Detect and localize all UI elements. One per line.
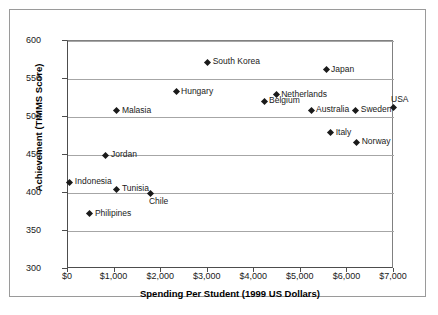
data-point-label: Philipines xyxy=(95,209,131,218)
data-point-label: Australia xyxy=(316,105,349,114)
data-point-marker xyxy=(322,66,329,73)
data-point-marker xyxy=(113,186,120,193)
y-axis-title: Achievement (TIMMS Score) xyxy=(33,18,44,238)
x-tick-label: $7,000 xyxy=(363,272,423,281)
data-point-label: Malasia xyxy=(122,106,151,115)
y-tick-label: 350 xyxy=(7,226,41,235)
data-point-marker xyxy=(66,179,73,186)
gridline xyxy=(68,231,394,232)
data-point-label: Italy xyxy=(336,128,352,137)
y-tick-label: 550 xyxy=(7,74,41,83)
data-point-label: South Korea xyxy=(213,57,260,66)
data-point-marker xyxy=(172,88,179,95)
scatter-chart-figure: Achievement (TIMMS Score) Spending Per S… xyxy=(0,0,438,315)
data-point-label: Netherlands xyxy=(281,90,327,99)
gridline xyxy=(68,117,394,118)
plot-area: IndonesiaPhilipinesJordanTunisiaMalasiaC… xyxy=(67,40,393,268)
data-point-label: Indonesia xyxy=(75,177,112,186)
y-tick-label: 400 xyxy=(7,188,41,197)
data-point-label: Chile xyxy=(149,197,168,206)
data-point-label: Tunisia xyxy=(122,184,149,193)
data-point-label: Japan xyxy=(331,65,354,74)
data-point-marker xyxy=(327,129,334,136)
gridline xyxy=(68,41,394,42)
data-point-marker xyxy=(352,107,359,114)
data-point-marker xyxy=(113,107,120,114)
data-point-label: Hungary xyxy=(181,87,213,96)
data-point-marker xyxy=(261,97,268,104)
y-tick-label: 300 xyxy=(7,264,41,273)
gridline xyxy=(68,79,394,80)
data-point-label: USA xyxy=(391,95,408,104)
data-point-marker xyxy=(308,107,315,114)
y-tick-label: 450 xyxy=(7,150,41,159)
data-point-label: Norway xyxy=(362,137,391,146)
gridline xyxy=(68,193,394,194)
figure-frame: Achievement (TIMMS Score) Spending Per S… xyxy=(9,9,426,297)
data-point-label: Sweden xyxy=(361,105,392,114)
data-point-marker xyxy=(102,151,109,158)
data-point-marker xyxy=(86,210,93,217)
data-point-marker xyxy=(204,59,211,66)
data-point-marker xyxy=(353,139,360,146)
y-tick-label: 600 xyxy=(7,36,41,45)
data-point-label: Jordan xyxy=(111,150,137,159)
x-axis-title: Spending Per Student (1999 US Dollars) xyxy=(67,288,393,299)
y-tick-label: 500 xyxy=(7,112,41,121)
